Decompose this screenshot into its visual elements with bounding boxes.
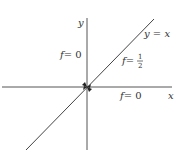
fraction-numerator: 1 bbox=[138, 53, 142, 61]
x-axis-label: x bbox=[168, 90, 174, 101]
diagonal-label: y = x bbox=[143, 28, 170, 39]
y-axis-label: y bbox=[77, 17, 84, 28]
diagram-canvas: y x y = x f= 0 f= 1 2 f= 0 bbox=[0, 0, 180, 158]
diagonal-line bbox=[26, 19, 154, 150]
region-label-upper-left: f= 0 bbox=[59, 49, 82, 60]
fraction-denominator: 2 bbox=[138, 62, 142, 70]
region-label-lower-right: f= 0 bbox=[119, 90, 142, 101]
region-label-diagonal: f= bbox=[121, 55, 134, 66]
